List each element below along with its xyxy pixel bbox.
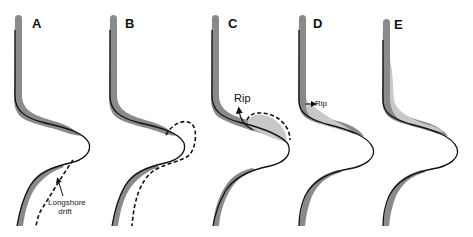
longshore-drift-label-line2: drift bbox=[48, 207, 82, 216]
rip-label-d: Rip bbox=[315, 99, 327, 108]
panel-label-a: A bbox=[32, 16, 41, 31]
sediment-patch bbox=[306, 100, 352, 132]
panel-d bbox=[298, 15, 374, 226]
shoreline-band-upper bbox=[109, 15, 175, 136]
panel-label-e: E bbox=[394, 17, 403, 32]
rip-label-c: Rip bbox=[234, 92, 251, 104]
panel-label-b: B bbox=[125, 16, 134, 31]
panel-c bbox=[211, 15, 290, 226]
shoreline-band-upper bbox=[14, 15, 80, 136]
longshore-drift-label-line1: Longshore bbox=[48, 198, 82, 207]
panel-label-d: D bbox=[313, 16, 322, 31]
shoreline-band-upper bbox=[298, 15, 364, 136]
panel-b bbox=[109, 15, 195, 226]
longshore-drift-label: Longshore drift bbox=[48, 198, 82, 216]
shoreline-band-lower bbox=[213, 168, 256, 226]
panel-label-c: C bbox=[228, 16, 237, 31]
panel-a bbox=[14, 15, 90, 226]
panel-e bbox=[382, 19, 458, 226]
longshore-drift-arrow bbox=[58, 180, 63, 196]
